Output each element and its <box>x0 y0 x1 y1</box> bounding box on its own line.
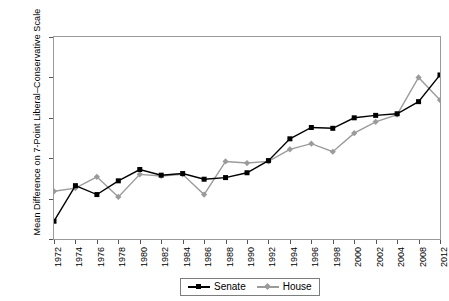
x-tick-label: 1984 <box>182 247 192 267</box>
data-point <box>94 192 99 197</box>
x-tick-mark <box>161 240 162 244</box>
x-tick-mark <box>397 240 398 244</box>
x-tick-mark <box>440 240 441 244</box>
x-tick-label: 1996 <box>310 247 320 267</box>
series-canvas <box>54 37 440 239</box>
x-tick-mark <box>333 240 334 244</box>
x-tick-label: 1978 <box>117 247 127 267</box>
x-tick-mark <box>290 240 291 244</box>
data-point <box>287 136 292 141</box>
data-point <box>202 177 207 182</box>
x-tick-mark <box>204 240 205 244</box>
x-tick-label: 2004 <box>396 247 406 267</box>
x-tick-mark <box>311 240 312 244</box>
data-point <box>223 175 228 180</box>
data-point <box>309 125 314 130</box>
x-tick-label: 2008 <box>418 247 428 267</box>
x-tick-mark <box>97 240 98 244</box>
x-tick-label: 1998 <box>332 247 342 267</box>
legend-swatch-senate <box>188 282 210 291</box>
data-point <box>330 126 335 131</box>
data-point <box>159 173 164 178</box>
x-tick-label: 1974 <box>74 247 84 267</box>
chart-legend: Senate House <box>180 278 320 296</box>
x-tick-mark <box>354 240 355 244</box>
x-tick-label: 1990 <box>246 247 256 267</box>
data-point <box>245 170 250 175</box>
x-tick-label: 1982 <box>160 247 170 267</box>
data-point <box>73 183 78 188</box>
data-point <box>373 113 378 118</box>
data-point <box>438 72 441 77</box>
chart-figure: Mean Difference on 7-Point Liberal–Conse… <box>0 0 449 301</box>
x-tick-label: 2012 <box>439 247 449 267</box>
data-point <box>373 119 379 125</box>
data-point <box>244 160 250 166</box>
x-tick-label: 1972 <box>53 247 63 267</box>
x-tick-mark <box>226 240 227 244</box>
x-tick-mark <box>376 240 377 244</box>
x-tick-label: 2000 <box>353 247 363 267</box>
x-tick-mark <box>54 240 55 244</box>
x-tick-mark <box>75 240 76 244</box>
x-tick-mark <box>268 240 269 244</box>
y-axis-label: Mean Difference on 7-Point Liberal–Conse… <box>32 0 42 247</box>
plot-area <box>53 36 441 240</box>
data-point <box>395 111 400 116</box>
data-point <box>137 167 142 172</box>
legend-item-house: House <box>257 281 312 292</box>
x-tick-label: 1992 <box>267 247 277 267</box>
data-point <box>287 146 293 152</box>
x-tick-mark <box>183 240 184 244</box>
data-point <box>266 158 271 163</box>
legend-item-senate: Senate <box>188 281 246 292</box>
x-tick-mark <box>118 240 119 244</box>
x-tick-mark <box>419 240 420 244</box>
data-point <box>352 115 357 120</box>
data-point <box>416 99 421 104</box>
series-line-house <box>54 77 440 197</box>
x-tick-label: 1986 <box>203 247 213 267</box>
data-point <box>54 219 57 224</box>
data-point <box>308 141 314 147</box>
data-point <box>116 178 121 183</box>
x-tick-mark <box>140 240 141 244</box>
data-point <box>180 171 185 176</box>
x-tick-label: 1994 <box>289 247 299 267</box>
x-tick-mark <box>247 240 248 244</box>
x-tick-label: 1988 <box>225 247 235 267</box>
legend-swatch-house <box>257 282 279 291</box>
data-point <box>54 188 57 194</box>
x-tick-label: 2002 <box>375 247 385 267</box>
x-tick-label: 1976 <box>96 247 106 267</box>
x-tick-label: 1980 <box>139 247 149 267</box>
legend-label-house: House <box>283 281 312 292</box>
legend-label-senate: Senate <box>214 281 246 292</box>
series-line-senate <box>54 75 440 221</box>
